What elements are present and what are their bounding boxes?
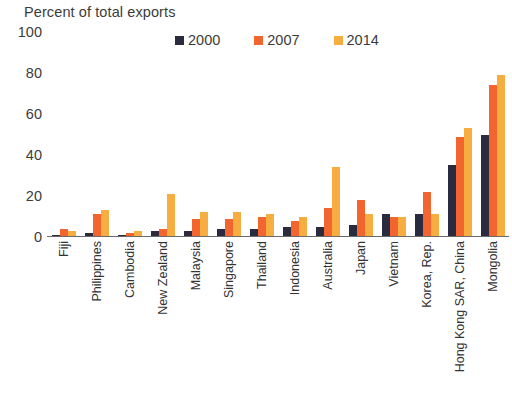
x-axis-tick-label: Philippines (90, 241, 103, 301)
y-axis-tick-label: 40 (26, 147, 42, 163)
x-label-cell: Japan (344, 239, 377, 409)
bar-group (179, 32, 212, 237)
bar-2000[interactable] (448, 165, 456, 237)
bar-2014[interactable] (431, 214, 439, 237)
bar-group (212, 32, 245, 237)
x-label-cell: Malaysia (179, 239, 212, 409)
bar-2007[interactable] (489, 85, 497, 237)
x-label-cell: Cambodia (113, 239, 146, 409)
x-label-cell: Vietnam (377, 239, 410, 409)
x-axis-tick-label: New Zealand (156, 241, 169, 315)
bar-2014[interactable] (497, 75, 505, 237)
bar-2014[interactable] (332, 167, 340, 237)
bar-2000[interactable] (415, 214, 423, 237)
y-axis-tick-label: 0 (34, 229, 42, 245)
bar-group (344, 32, 377, 237)
bar-2007[interactable] (423, 192, 431, 237)
bar-2014[interactable] (398, 217, 406, 238)
y-axis-tick-label: 20 (26, 188, 42, 204)
y-axis-tick-label: 100 (18, 24, 42, 40)
bar-2007[interactable] (324, 208, 332, 237)
bar-2014[interactable] (233, 212, 241, 237)
x-axis-tick-label: Thailand (255, 241, 268, 289)
bar-2014[interactable] (464, 128, 472, 237)
bar-group (113, 32, 146, 237)
bar-2007[interactable] (456, 137, 464, 237)
bar-2000[interactable] (382, 214, 390, 237)
y-axis: 020406080100 (0, 32, 42, 237)
bar-2007[interactable] (357, 200, 365, 237)
bar-chart: Percent of total exports 2000 2007 2014 … (0, 0, 512, 411)
x-axis-tick-label: Japan (354, 241, 367, 275)
bar-group (377, 32, 410, 237)
bar-group (278, 32, 311, 237)
x-axis-tick-label: Indonesia (288, 241, 301, 295)
x-axis-labels: FijiPhilippinesCambodiaNew ZealandMalays… (47, 239, 509, 409)
chart-axis-title: Percent of total exports (24, 4, 176, 20)
bar-2007[interactable] (258, 217, 266, 238)
plot-area (47, 32, 509, 237)
x-axis-tick-label: Hong Kong SAR, China (453, 241, 466, 372)
bar-2014[interactable] (101, 210, 109, 237)
x-axis-line (47, 236, 509, 238)
y-axis-tick-label: 80 (26, 65, 42, 81)
bar-groups (47, 32, 509, 237)
x-label-cell: Hong Kong SAR, China (443, 239, 476, 409)
x-label-cell: New Zealand (146, 239, 179, 409)
bar-group (80, 32, 113, 237)
x-axis-tick-label: Fiji (57, 241, 70, 257)
bar-2014[interactable] (200, 212, 208, 237)
bar-2007[interactable] (225, 219, 233, 237)
bar-2007[interactable] (93, 214, 101, 237)
bar-group (476, 32, 509, 237)
bar-group (311, 32, 344, 237)
x-label-cell: Mongolia (476, 239, 509, 409)
bar-2014[interactable] (299, 217, 307, 238)
bar-2007[interactable] (390, 217, 398, 238)
x-axis-tick-label: Singapore (222, 241, 235, 298)
y-axis-tick-label: 60 (26, 106, 42, 122)
bar-2014[interactable] (365, 214, 373, 237)
x-axis-tick-label: Australia (321, 241, 334, 290)
x-axis-tick-label: Malaysia (189, 241, 202, 290)
x-axis-tick-label: Mongolia (486, 241, 499, 292)
bar-group (410, 32, 443, 237)
x-label-cell: Fiji (47, 239, 80, 409)
bar-2014[interactable] (266, 214, 274, 237)
bar-group (443, 32, 476, 237)
bar-2014[interactable] (167, 194, 175, 237)
bar-2000[interactable] (481, 135, 489, 238)
x-label-cell: Indonesia (278, 239, 311, 409)
x-axis-tick-label: Cambodia (123, 241, 136, 298)
x-label-cell: Australia (311, 239, 344, 409)
x-label-cell: Philippines (80, 239, 113, 409)
bar-group (47, 32, 80, 237)
x-label-cell: Korea, Rep. (410, 239, 443, 409)
bar-2007[interactable] (192, 219, 200, 237)
x-label-cell: Singapore (212, 239, 245, 409)
x-label-cell: Thailand (245, 239, 278, 409)
bar-group (146, 32, 179, 237)
x-axis-tick-label: Korea, Rep. (420, 241, 433, 308)
bar-group (245, 32, 278, 237)
x-axis-tick-label: Vietnam (387, 241, 400, 287)
